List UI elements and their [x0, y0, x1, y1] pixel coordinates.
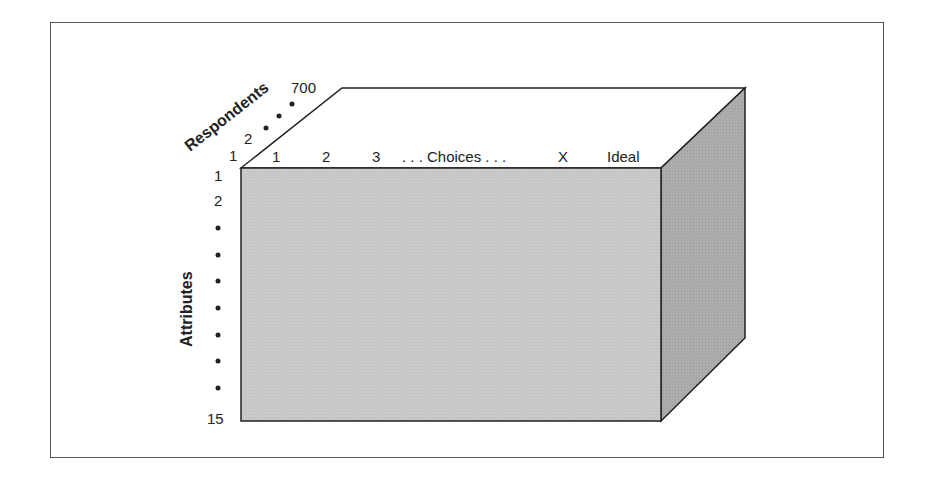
respondents-second-label: 2: [244, 130, 252, 147]
attributes-ellipsis-dot: [216, 306, 221, 311]
attributes-end-label: 15: [207, 410, 224, 427]
choice-label-ideal: Ideal: [607, 148, 640, 165]
choice-label-3: 3: [372, 148, 380, 165]
attributes-start-label: 1: [214, 167, 222, 184]
attributes-axis-title: Attributes: [178, 271, 195, 347]
attributes-ellipsis-dot: [216, 253, 221, 258]
attributes-ellipsis-dot: [216, 226, 221, 231]
choice-label-x: X: [558, 148, 568, 165]
cube-front-face: [241, 168, 661, 421]
data-cube-diagram: Respondents 1 2 700 1 2 3 . . . Choices …: [0, 0, 933, 484]
choice-label-2: 2: [322, 148, 330, 165]
attributes-ellipsis-dot: [216, 386, 221, 391]
respondents-ellipsis-dot: [277, 114, 282, 119]
respondents-ellipsis-dot: [264, 126, 269, 131]
attributes-ellipsis-dot: [216, 333, 221, 338]
respondents-axis-title: Respondents: [181, 79, 271, 155]
choice-label-1: 1: [272, 148, 280, 165]
choices-axis-title: . . . Choices . . .: [402, 148, 506, 165]
attributes-ellipsis-dot: [216, 359, 221, 364]
attributes-second-label: 2: [214, 192, 222, 209]
respondents-start-label: 1: [229, 147, 237, 164]
respondents-ellipsis-dot: [290, 102, 295, 107]
respondents-end-label: 700: [291, 79, 316, 96]
attributes-ellipsis-dot: [216, 279, 221, 284]
